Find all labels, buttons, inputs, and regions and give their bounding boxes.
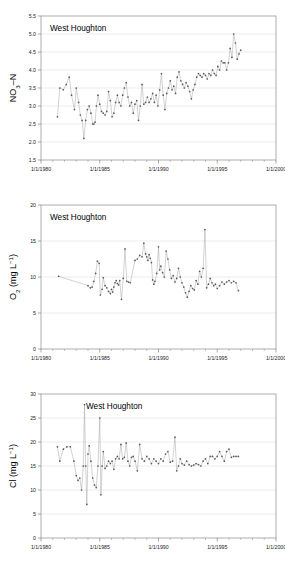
y-tick-label: 0	[33, 346, 36, 352]
x-tick-label: 1/1/1980	[31, 544, 51, 550]
x-tick-label: 1/1/1980	[31, 355, 51, 361]
y-axis-title: NO3–N	[8, 74, 21, 102]
y-tick-label: 15	[30, 463, 36, 469]
x-tick-label: 1/1/1980	[31, 166, 51, 172]
panel-no3n: 1.52.02.53.03.54.04.55.05.51/1/19801/1/1…	[0, 0, 285, 189]
y-tick-label: 10	[30, 487, 36, 493]
series-line	[59, 229, 239, 299]
x-tick-label: 1/1/1995	[207, 166, 227, 172]
chart-no3n: 1.52.02.53.03.54.04.55.05.51/1/19801/1/1…	[0, 0, 285, 189]
y-tick-label: 3.0	[29, 103, 36, 109]
y-tick-label: 5	[33, 310, 36, 316]
panel-cl: 0510152025301/1/19801/1/19851/1/19901/1/…	[0, 378, 285, 567]
y-tick-label: 20	[30, 202, 36, 208]
x-tick-label: 1/1/2000	[266, 544, 285, 550]
y-tick-label: 0	[33, 535, 36, 541]
x-tick-label: 1/1/1985	[90, 355, 110, 361]
y-tick-label: 5.0	[29, 31, 36, 37]
y-tick-label: 25	[30, 415, 36, 421]
y-tick-label: 2.0	[29, 139, 36, 145]
x-tick-label: 1/1/1990	[148, 355, 168, 361]
series-points	[58, 229, 239, 301]
y-axis-title: O2 (mg L−1)	[7, 254, 21, 300]
y-tick-label: 2.5	[29, 121, 36, 127]
series-points	[57, 33, 242, 139]
x-tick-label: 1/1/1985	[90, 544, 110, 550]
y-tick-label: 30	[30, 391, 36, 397]
x-tick-label: 1/1/1990	[148, 166, 168, 172]
site-label: West Houghton	[86, 402, 143, 411]
y-axis-title: Cl (mg L−1)	[7, 444, 19, 488]
series-line	[57, 405, 238, 505]
x-tick-label: 1/1/2000	[266, 355, 285, 361]
x-tick-label: 1/1/1985	[90, 166, 110, 172]
y-tick-label: 4.0	[29, 67, 36, 73]
y-tick-label: 5.5	[29, 13, 36, 19]
y-tick-label: 3.5	[29, 85, 36, 91]
x-tick-label: 1/1/2000	[266, 166, 285, 172]
y-tick-label: 10	[30, 274, 36, 280]
site-label: West Houghton	[50, 213, 107, 222]
x-tick-label: 1/1/1995	[207, 544, 227, 550]
y-tick-label: 5	[33, 511, 36, 517]
chart-o2: 051015201/1/19801/1/19851/1/19901/1/1995…	[0, 189, 285, 378]
chart-cl: 0510152025301/1/19801/1/19851/1/19901/1/…	[0, 378, 285, 568]
y-tick-label: 4.5	[29, 49, 36, 55]
series-line	[57, 34, 240, 138]
site-label: West Houghton	[50, 24, 107, 33]
x-tick-label: 1/1/1995	[207, 355, 227, 361]
x-tick-label: 1/1/1990	[148, 544, 168, 550]
y-tick-label: 1.5	[29, 157, 36, 163]
figure-west-houghton-timeseries: 1.52.02.53.03.54.04.55.05.51/1/19801/1/1…	[0, 0, 285, 568]
panel-o2: 051015201/1/19801/1/19851/1/19901/1/1995…	[0, 189, 285, 378]
y-tick-label: 20	[30, 439, 36, 445]
y-tick-label: 15	[30, 238, 36, 244]
